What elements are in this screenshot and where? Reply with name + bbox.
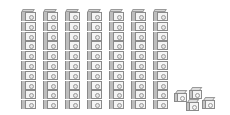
- cube-peg-icon: [139, 103, 144, 108]
- cube-peg-icon: [161, 103, 166, 108]
- linking-cube: [47, 90, 58, 99]
- tens-rod: [131, 12, 146, 111]
- linking-cube: [157, 100, 168, 109]
- linking-cube: [25, 100, 36, 109]
- cube-peg-icon: [29, 44, 34, 49]
- linking-cube: [135, 41, 146, 50]
- cube-peg-icon: [51, 84, 56, 89]
- cube-peg-icon: [117, 44, 122, 49]
- cube-peg-icon: [139, 15, 144, 20]
- cube-peg-icon: [139, 74, 144, 79]
- linking-cube: [25, 51, 36, 60]
- ones-cube: [202, 97, 215, 109]
- tens-rod: [65, 12, 80, 111]
- cube-peg-icon: [51, 15, 56, 20]
- cube-peg-icon: [73, 74, 78, 79]
- linking-cube: [47, 41, 58, 50]
- cube-peg-icon: [117, 54, 122, 59]
- linking-cube: [91, 32, 102, 41]
- linking-cube: [69, 61, 80, 70]
- cube-peg-icon: [192, 105, 197, 110]
- cube-peg-icon: [73, 93, 78, 98]
- linking-cube: [69, 90, 80, 99]
- cube-peg-icon: [51, 103, 56, 108]
- linking-cube: [69, 71, 80, 80]
- cube-peg-icon: [51, 35, 56, 40]
- tens-rod: [87, 12, 102, 111]
- linking-cube: [135, 90, 146, 99]
- linking-cube: [91, 22, 102, 31]
- linking-cube: [135, 12, 146, 21]
- cube-peg-icon: [51, 64, 56, 69]
- linking-cube: [113, 32, 124, 41]
- linking-cube: [135, 81, 146, 90]
- linking-cube: [47, 51, 58, 60]
- linking-cube: [157, 81, 168, 90]
- cube-front-face: [192, 90, 202, 99]
- cube-peg-icon: [139, 54, 144, 59]
- cube-peg-icon: [117, 84, 122, 89]
- cube-peg-icon: [208, 103, 213, 108]
- cube-peg-icon: [95, 103, 100, 108]
- linking-cube: [135, 32, 146, 41]
- linking-cube: [69, 81, 80, 90]
- linking-cube: [25, 12, 36, 21]
- linking-cube: [25, 61, 36, 70]
- linking-cube: [113, 22, 124, 31]
- linking-cube: [135, 61, 146, 70]
- linking-cube: [157, 22, 168, 31]
- tens-rod: [109, 12, 124, 111]
- linking-cube: [157, 90, 168, 99]
- ones-cube: [186, 99, 199, 111]
- cube-peg-icon: [180, 96, 185, 101]
- linking-cube: [135, 71, 146, 80]
- linking-cube: [91, 41, 102, 50]
- tens-rod: [21, 12, 36, 111]
- cube-peg-icon: [51, 54, 56, 59]
- cube-peg-icon: [161, 74, 166, 79]
- linking-cube: [113, 51, 124, 60]
- cube-peg-icon: [73, 35, 78, 40]
- cube-peg-icon: [95, 15, 100, 20]
- linking-cube: [113, 100, 124, 109]
- linking-cube: [91, 12, 102, 21]
- linking-cube: [25, 41, 36, 50]
- cube-peg-icon: [29, 54, 34, 59]
- linking-cube: [69, 41, 80, 50]
- tens-rod: [153, 12, 168, 111]
- cube-peg-icon: [161, 64, 166, 69]
- cube-peg-icon: [117, 64, 122, 69]
- cube-peg-icon: [95, 25, 100, 30]
- linking-cube: [157, 71, 168, 80]
- cube-peg-icon: [29, 93, 34, 98]
- linking-cube: [91, 100, 102, 109]
- cube-peg-icon: [29, 103, 34, 108]
- cube-peg-icon: [117, 103, 122, 108]
- cube-peg-icon: [95, 74, 100, 79]
- cube-peg-icon: [73, 64, 78, 69]
- linking-cube: [157, 51, 168, 60]
- linking-cube: [157, 32, 168, 41]
- cube-peg-icon: [29, 84, 34, 89]
- linking-cube: [47, 22, 58, 31]
- cube-peg-icon: [161, 93, 166, 98]
- cube-peg-icon: [161, 15, 166, 20]
- linking-cube: [47, 32, 58, 41]
- linking-cube: [69, 51, 80, 60]
- cube-peg-icon: [117, 74, 122, 79]
- linking-cube: [25, 81, 36, 90]
- linking-cube: [157, 41, 168, 50]
- tens-rod: [43, 12, 58, 111]
- cube-peg-icon: [139, 35, 144, 40]
- linking-cube: [47, 100, 58, 109]
- linking-cube: [113, 71, 124, 80]
- linking-cube: [69, 100, 80, 109]
- cube-peg-icon: [139, 93, 144, 98]
- linking-cube: [25, 32, 36, 41]
- linking-cube: [47, 61, 58, 70]
- cube-peg-icon: [95, 64, 100, 69]
- linking-cube: [69, 22, 80, 31]
- cube-peg-icon: [161, 25, 166, 30]
- cube-peg-icon: [95, 44, 100, 49]
- linking-cube: [157, 61, 168, 70]
